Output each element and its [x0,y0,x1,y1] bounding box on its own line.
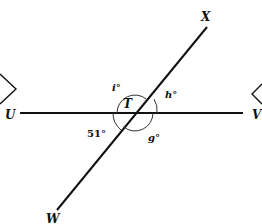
right-edge-diamond-shape [252,84,262,104]
angle-label-51: 51° [87,129,106,139]
point-label-u: U [5,109,15,121]
angle-label-g: g° [148,133,160,143]
point-label-t: T [123,98,132,110]
line-wx [57,27,207,210]
angle-arc-51 [113,113,121,130]
point-label-x: X [201,11,210,23]
angle-label-h: h° [165,90,177,100]
left-edge-diamond-shape [0,74,16,104]
diagram-canvas [0,0,262,224]
angle-arc-h [154,99,157,113]
angle-label-i: i° [112,83,121,93]
point-label-v: V [252,109,261,121]
point-label-w: W [46,213,59,224]
